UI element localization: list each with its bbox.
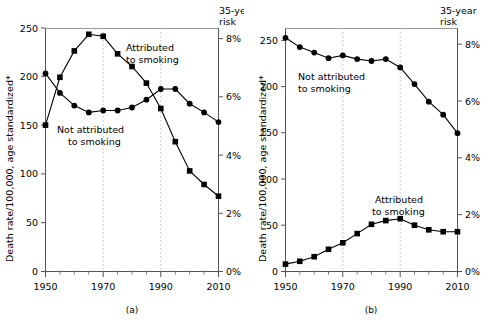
x-tick-b-1990: 1990: [388, 281, 412, 292]
data-point: [369, 222, 375, 228]
x-tick-a-1990: 1990: [149, 281, 173, 292]
x-tick-a-2010: 2010: [206, 281, 230, 292]
annotation-line2: to smoking: [372, 206, 425, 217]
data-point: [216, 119, 222, 125]
data-point: [440, 112, 446, 118]
y2-tick-a-8: 8%: [226, 33, 241, 44]
y-tick-b-150: 150: [260, 127, 278, 138]
y-axis-title-b: Death rate/100,000, age standardized*: [257, 75, 268, 262]
annotation-line1: Attributed: [375, 194, 423, 205]
data-point: [86, 110, 92, 116]
annotation-line2: to smoking: [126, 54, 179, 65]
annotation-line1: Not attributed: [298, 71, 365, 82]
panel-caption-b: (b): [365, 305, 378, 315]
data-point: [311, 50, 317, 56]
y-tick-a-200: 200: [20, 71, 38, 82]
data-point: [158, 106, 164, 112]
corner-label-line2-a: risk: [219, 16, 236, 27]
data-point: [144, 97, 150, 103]
data-point: [383, 56, 389, 62]
y-axis-right-b: 0% 2% 4% 6% 8%: [458, 39, 481, 277]
annotation-b-attributed: Attributed to smoking: [372, 194, 425, 217]
corner-label-line1-a: 35-year: [219, 5, 244, 16]
data-point: [283, 261, 289, 267]
chart-svg-a: Death rate/100,000, age standardized* 35…: [0, 0, 244, 323]
data-point: [100, 34, 106, 40]
data-point: [115, 108, 121, 114]
data-point: [201, 110, 207, 116]
panel-caption-a: (a): [126, 305, 139, 315]
chart-panel-b: Death rate/100,000, age standardized* 35…: [244, 0, 488, 323]
y-tick-b-0: 0: [272, 266, 278, 277]
data-point: [115, 51, 121, 57]
data-point: [144, 80, 150, 86]
corner-label-line2-b: risk: [440, 16, 457, 27]
data-point: [369, 58, 375, 64]
data-point: [455, 229, 461, 235]
data-point: [57, 90, 63, 96]
data-point: [100, 108, 106, 114]
y2-tick-a-6: 6%: [226, 91, 241, 102]
y2-tick-b-4: 4%: [465, 152, 480, 163]
x-tick-b-1970: 1970: [331, 281, 355, 292]
annotation-a-not-attributed: Not attributed to smoking: [57, 124, 124, 147]
y2-tick-a-2: 2%: [226, 208, 241, 219]
x-axis-a: 1950 1970 1990 2010: [33, 272, 230, 293]
data-point: [297, 259, 303, 265]
y2-tick-b-2: 2%: [465, 209, 480, 220]
y-axis-title-a: Death rate/100,000, age standardized*: [4, 75, 15, 262]
y2-tick-b-8: 8%: [465, 39, 480, 50]
y-tick-a-50: 50: [26, 217, 38, 228]
annotation-line1: Attributed: [126, 42, 174, 53]
data-point: [326, 55, 332, 61]
data-point: [297, 44, 303, 50]
data-point: [283, 35, 289, 41]
data-point: [426, 99, 432, 105]
data-point: [383, 218, 389, 224]
y-tick-b-200: 200: [260, 81, 278, 92]
x-tick-a-1950: 1950: [33, 281, 57, 292]
data-point: [354, 56, 360, 62]
data-point: [187, 168, 193, 174]
y2-tick-b-0: 0%: [465, 266, 480, 277]
y2-tick-a-4: 4%: [226, 150, 241, 161]
data-point: [43, 71, 49, 77]
data-point: [412, 222, 418, 228]
x-tick-b-1950: 1950: [273, 281, 297, 292]
annotation-line2: to smoking: [68, 136, 121, 147]
annotation-line1: Not attributed: [57, 124, 124, 135]
gridlines-b: [343, 28, 400, 272]
x-axis-b: 1950 1970 1990 2010: [273, 272, 469, 293]
data-point: [311, 254, 317, 260]
y2-tick-a-0: 0%: [226, 266, 241, 277]
data-point: [72, 48, 78, 54]
data-point: [354, 231, 360, 237]
y-axis-left-a: 0 50 100 150 200 250: [20, 23, 46, 278]
data-point: [43, 122, 49, 128]
data-point: [201, 182, 207, 188]
data-point: [216, 193, 222, 199]
data-point: [129, 105, 135, 111]
data-point: [397, 65, 403, 71]
y-tick-b-250: 250: [260, 35, 278, 46]
data-point: [455, 130, 461, 136]
data-point: [340, 53, 346, 59]
data-point: [57, 75, 63, 81]
chart-panel-a: Death rate/100,000, age standardized* 35…: [0, 0, 244, 323]
y-tick-a-0: 0: [32, 266, 38, 277]
data-point: [440, 229, 446, 235]
data-point: [86, 32, 92, 38]
data-point: [158, 86, 164, 92]
x-tick-a-1970: 1970: [91, 281, 115, 292]
annotation-line2: to smoking: [298, 83, 351, 94]
y-tick-b-50: 50: [266, 220, 278, 231]
data-point: [71, 103, 77, 109]
annotation-a-attributed: Attributed to smoking: [126, 42, 179, 65]
data-point: [187, 101, 193, 107]
series-b-attributed: [283, 216, 461, 267]
y2-tick-b-6: 6%: [465, 96, 480, 107]
y-tick-a-100: 100: [20, 168, 38, 179]
x-tick-b-2010: 2010: [445, 281, 469, 292]
data-point: [340, 240, 346, 246]
chart-svg-b: Death rate/100,000, age standardized* 35…: [244, 0, 488, 323]
